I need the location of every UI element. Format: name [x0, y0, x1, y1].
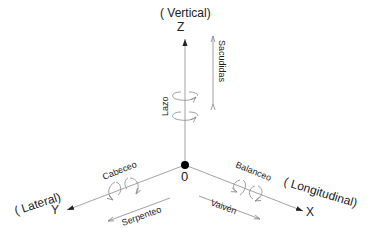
sacudidas-label: Sacudidas — [217, 40, 227, 83]
y-axis-letter: Y — [51, 203, 59, 217]
x-axis-letter: X — [306, 205, 314, 219]
origin-point — [181, 161, 189, 169]
vaiven-label: Vaivén — [209, 197, 238, 216]
serpenteo-label: Serpenteo — [120, 204, 162, 228]
vehicle-axes-diagram: 0 ( Vertical) Z Sacudidas Lazo ( Lateral… — [0, 0, 373, 240]
lazo-label: Lazo — [160, 96, 170, 116]
balanceo-rotation-icon — [234, 180, 262, 201]
cabeceo-rotation-icon — [109, 178, 139, 200]
x-axis-name: ( Longitudinal) — [282, 174, 359, 210]
balanceo-label: Balanceo — [234, 160, 273, 183]
z-axis-letter: Z — [177, 20, 184, 34]
z-axis-name: ( Vertical) — [160, 6, 211, 20]
origin-label: 0 — [181, 169, 188, 184]
